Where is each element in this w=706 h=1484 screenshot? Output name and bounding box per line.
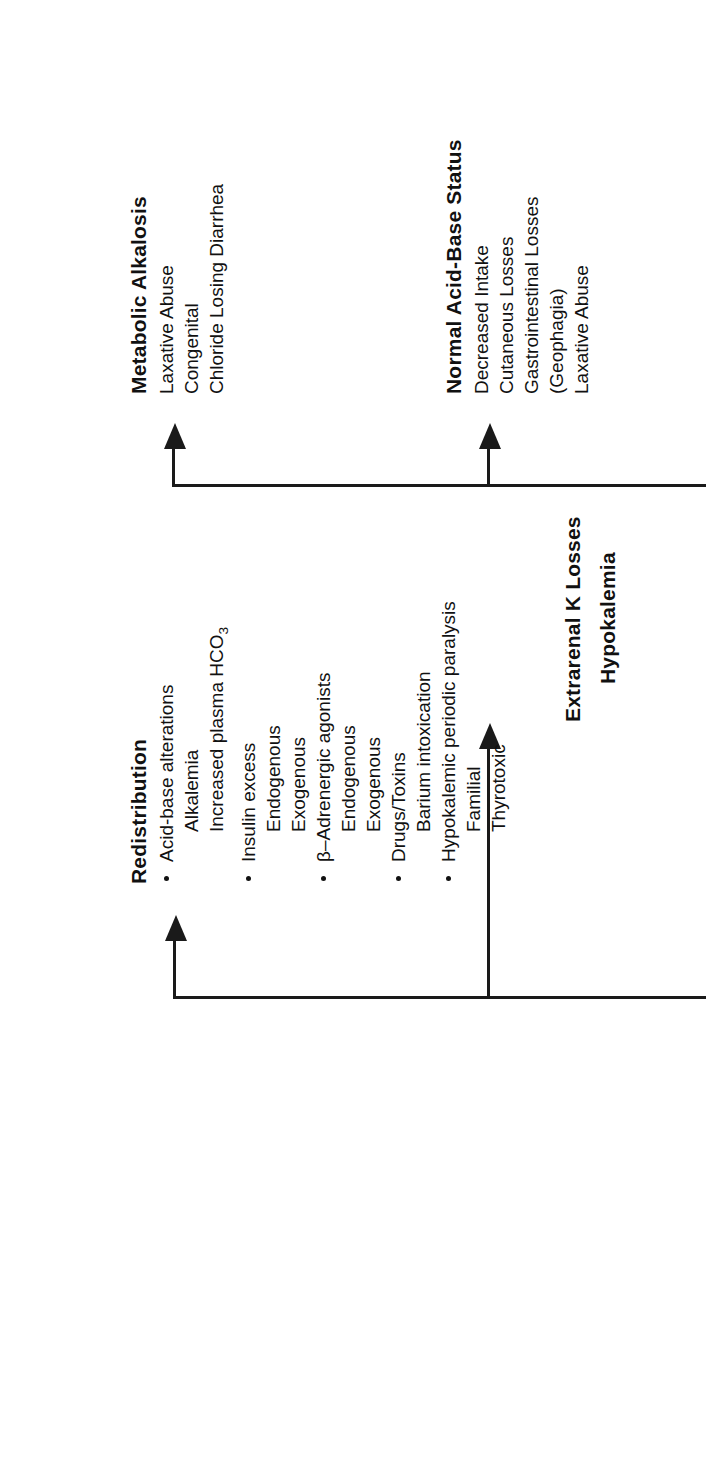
extrarenal-node: Extrarenal K Losses [560,516,588,722]
redistribution-item-label: Hypokalemic periodic paralysis [436,601,461,884]
redistribution-item-label: Insulin excess [236,601,261,884]
redistribution-title: Redistribution [126,601,151,884]
metabolic-alkalosis-node: Metabolic Alkalosis Laxative Abuse Conge… [126,184,229,394]
normal-acid-base-item: Decreased Intake [469,139,494,394]
redistribution-node: Redistribution Acid-base alterations Alk… [126,601,511,884]
metabolic-alkalosis-item: Congenital [179,184,204,394]
list-item: Hypokalemic periodic paralysis [436,601,461,884]
bullet-dot-icon [396,876,401,881]
normal-acid-base-node: Normal Acid-Base Status Decreased Intake… [441,139,594,394]
extrarenal-spine [172,484,706,487]
redistribution-subitem: Barium intoxication [411,601,436,884]
redistribution-subitem-hco3: Increased plasma HCO3 [204,601,236,884]
root-title: Hypokalemia [595,552,620,684]
redistribution-subitem: Alkalemia [179,601,204,884]
redistribution-list: Acid-base alterations Alkalemia Increase… [154,601,511,884]
extrarenal-title: Extrarenal K Losses [560,516,585,722]
redistribution-subitem: Exogenous [361,601,386,884]
normal-acid-base-item: Cutaneous Losses [494,139,519,394]
redistribution-subitem: Endogenous [336,601,361,884]
metabolic-alkalosis-item: Chloride Losing Diarrhea [204,184,229,394]
redistribution-arrowhead [165,915,187,941]
normal-acid-base-item: Laxative Abuse [569,139,594,394]
normal-acid-base-item: (Geophagia) [544,139,569,394]
bullet-dot-icon [446,876,451,881]
redistribution-item-label: β–Adrenergic agonists [311,601,336,884]
bullet-dot-icon [164,876,169,881]
redistribution-item-label: Acid-base alterations [154,601,179,884]
metabolic-alkalosis-arrowhead [164,423,186,449]
redistribution-branch-line [173,937,176,999]
redistribution-subitem: Endogenous [261,601,286,884]
list-item: Drugs/Toxins [386,601,411,884]
redistribution-subitem: Exogenous [286,601,311,884]
list-item: Acid-base alterations [154,601,179,884]
bullet-dot-icon [321,876,326,881]
redistribution-item-label: Drugs/Toxins [386,601,411,884]
normal-acid-base-title: Normal Acid-Base Status [441,139,466,394]
list-item: β–Adrenergic agonists [311,601,336,884]
root-spine [173,996,706,999]
redistribution-subitem: Thyrotoxic [486,601,511,884]
metabolic-alkalosis-item: Laxative Abuse [154,184,179,394]
list-item: Insulin excess [236,601,261,884]
root-node: Hypokalemia [595,552,623,684]
bullet-dot-icon [246,876,251,881]
metabolic-alkalosis-branch-line [172,445,175,487]
normal-acid-base-item: Gastrointestinal Losses [519,139,544,394]
flowchart-canvas: Hypokalemia Redistribution Acid-base alt… [0,0,706,1484]
redistribution-subitem: Familial [461,601,486,884]
metabolic-alkalosis-title: Metabolic Alkalosis [126,184,151,394]
normal-acid-base-branch-line [487,445,490,487]
normal-acid-base-arrowhead [479,423,501,449]
